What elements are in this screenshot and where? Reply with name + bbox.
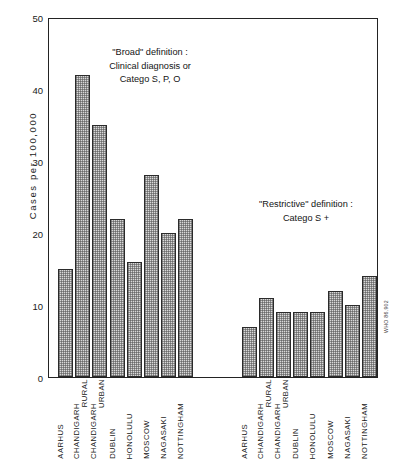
x-axis-label-line: NAGASAKI	[344, 416, 352, 459]
x-axis-label-line: RURAL	[265, 379, 273, 407]
bar	[92, 125, 107, 377]
x-axis-label-line: DUBLIN	[109, 428, 117, 459]
x-axis-label-group: AARHUSCHANDIGARHRURALCHANDIGARHURBANDUBL…	[48, 379, 378, 459]
x-axis-label: DUBLIN	[292, 379, 307, 459]
x-axis-label-line: CHANDIGARH	[257, 403, 265, 459]
x-axis-label-line: CHANDIGARH	[274, 403, 282, 459]
x-axis-label-line: MOSCOW	[143, 420, 151, 459]
x-axis-label: CHANDIGARHRURAL	[258, 379, 273, 459]
bar	[328, 291, 343, 377]
annotation-line: Catego S +	[230, 212, 382, 226]
bar	[178, 219, 193, 377]
x-axis-label: NOTTINGHAM	[361, 379, 376, 459]
x-axis-label: MOSCOW	[143, 379, 158, 459]
x-axis-label: CHANDIGARHRURAL	[74, 379, 89, 459]
x-axis-label-line: URBAN	[282, 379, 290, 408]
bar	[259, 298, 274, 377]
bar	[242, 327, 257, 377]
x-axis-label-line: NOTTINGHAM	[177, 403, 185, 459]
x-axis-label: CHANDIGARHURBAN	[91, 379, 106, 459]
x-axis-label: NAGASAKI	[160, 379, 175, 459]
bar	[161, 233, 176, 377]
x-axis-label: MOSCOW	[327, 379, 342, 459]
y-axis-tick-label: 20	[3, 229, 43, 240]
x-axis-label-line: HONOLULU	[126, 413, 134, 459]
x-axis-label-line: NAGASAKI	[160, 416, 168, 459]
bar	[362, 276, 377, 377]
annotation-line: Clinical diagnosis or	[70, 60, 230, 74]
x-axis-label-line: RURAL	[81, 379, 89, 407]
x-axis-label: HONOLULU	[309, 379, 324, 459]
x-axis-label-line: DUBLIN	[292, 428, 300, 459]
bar	[75, 75, 90, 377]
annotation-line: "Restrictive" definition :	[230, 198, 382, 212]
who-watermark: WHO 86.902	[383, 300, 389, 333]
x-axis-label: DUBLIN	[109, 379, 124, 459]
bar	[58, 269, 73, 377]
annotation-restrictive-definition: "Restrictive" definition :Catego S +	[230, 198, 382, 225]
x-axis-label-line: CHANDIGARH	[73, 403, 81, 459]
bar	[310, 312, 325, 377]
y-axis-tick-label: 10	[3, 301, 43, 312]
x-axis-label-line: HONOLULU	[309, 413, 317, 459]
bar	[293, 312, 308, 377]
x-axis-label-line: AARHUS	[57, 424, 65, 459]
bar	[127, 262, 142, 377]
x-axis-label: NAGASAKI	[344, 379, 359, 459]
x-axis-label: NOTTINGHAM	[177, 379, 192, 459]
x-axis-label: CHANDIGARHURBAN	[275, 379, 290, 459]
x-axis-label-line: MOSCOW	[327, 420, 335, 459]
x-axis-label: HONOLULU	[126, 379, 141, 459]
x-axis-label: AARHUS	[241, 379, 256, 459]
x-axis-label: AARHUS	[57, 379, 72, 459]
bar	[276, 312, 291, 377]
annotation-broad-definition: "Broad" definition :Clinical diagnosis o…	[70, 46, 230, 87]
bar	[144, 175, 159, 377]
x-axis-label-line: URBAN	[98, 379, 106, 408]
annotation-line: Catego S, P, O	[70, 73, 230, 87]
y-axis-tick-label: 50	[3, 13, 43, 24]
y-axis-tick-label: 0	[3, 373, 43, 384]
bar	[110, 219, 125, 377]
y-axis-tick-label: 40	[3, 85, 43, 96]
x-axis-label-line: NOTTINGHAM	[361, 403, 369, 459]
chart-container: Cases per 100,000 01020304050 "Broad" de…	[0, 0, 400, 459]
bar	[345, 305, 360, 377]
x-axis-label-line: AARHUS	[241, 424, 249, 459]
y-axis-tick-label: 30	[3, 157, 43, 168]
x-axis-label-line: CHANDIGARH	[90, 403, 98, 459]
annotation-line: "Broad" definition :	[70, 46, 230, 60]
